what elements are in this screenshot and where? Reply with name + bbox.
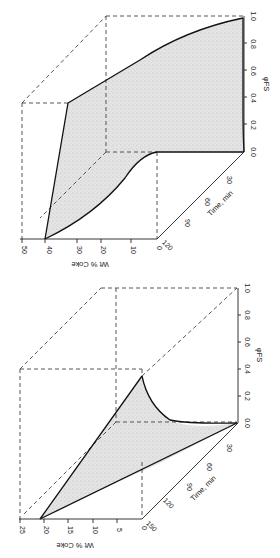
top-coke-label: Wt % Coke <box>71 260 109 269</box>
top-phi-tick: 0.0 <box>250 147 257 157</box>
bottom-phi-label: φFS <box>255 348 264 362</box>
bottom-coke-tick: 20 <box>43 526 50 534</box>
top-phi-tick: 0.2 <box>250 120 257 130</box>
bottom-coke-label: Wt % Coke <box>56 541 94 550</box>
bottom-time-tick: 120 <box>162 497 175 510</box>
bottom-time-tick: 150 <box>145 520 158 533</box>
bottom-coke-tick: 0 <box>141 526 148 530</box>
top-coke-tick: 20 <box>100 246 107 254</box>
top-coke-tick: 0 <box>156 246 163 250</box>
bottom-phi-tick: 0.2 <box>244 391 251 401</box>
bottom-surface <box>40 376 237 519</box>
bottom-time-tick: 60 <box>206 463 213 471</box>
top-coke-axis <box>20 239 157 243</box>
bottom-phi-tick: 1.0 <box>244 283 251 293</box>
top-time-tick: 30 <box>226 176 233 184</box>
top-coke-tick: 30 <box>76 246 83 254</box>
bottom-coke-tick: 10 <box>92 526 99 534</box>
bottom-panel: 25 20 15 10 5 0 Wt % Coke 150 120 90 60 … <box>19 283 264 550</box>
top-coke-tick: 50 <box>21 246 28 254</box>
bottom-coke-tick: 25 <box>19 526 26 534</box>
top-time-tick: 60 <box>204 198 211 206</box>
bottom-phi-tick: 0.4 <box>244 364 251 374</box>
bottom-phi-tick: 0.8 <box>244 310 251 320</box>
top-panel: 50 40 30 20 10 0 Wt % Coke 120 90 60 30 … <box>20 11 271 269</box>
bottom-coke-axis <box>19 519 142 523</box>
bottom-coke-tick: 5 <box>116 528 123 532</box>
figure: 50 40 30 20 10 0 Wt % Coke 120 90 60 30 … <box>0 0 280 558</box>
top-coke-tick: 10 <box>130 246 137 254</box>
top-phi-tick: 0.8 <box>250 39 257 49</box>
bottom-time-tick: 90 <box>186 483 193 491</box>
top-phi-tick: 0.6 <box>250 66 257 76</box>
bottom-coke-tick: 15 <box>67 526 74 534</box>
bottom-phi-axis <box>238 288 241 423</box>
top-time-tick: 90 <box>184 219 191 227</box>
bottom-phi-tick: 0.6 <box>244 337 251 347</box>
bottom-time-tick: 30 <box>226 444 233 452</box>
top-phi-label: φFS <box>262 77 271 91</box>
top-phi-axis <box>244 16 247 152</box>
bottom-phi-tick: 0.0 <box>244 418 251 428</box>
top-coke-tick: 40 <box>46 246 53 254</box>
top-phi-tick: 1.0 <box>250 11 257 21</box>
top-phi-tick: 0.4 <box>250 93 257 103</box>
